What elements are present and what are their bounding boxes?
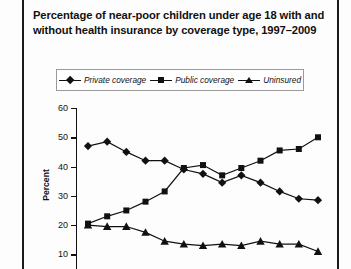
chart-title: Percentage of near-poor children under a… xyxy=(33,8,325,38)
data-point-square-2005 xyxy=(238,165,244,171)
y-tick-label-40: 40 xyxy=(58,162,68,172)
data-point-diamond-1999 xyxy=(122,148,130,156)
data-point-diamond-2005 xyxy=(237,171,245,179)
y-tick-label-50: 50 xyxy=(58,132,68,142)
legend-label-uninsured: Uninsured xyxy=(263,75,301,85)
data-point-diamond-1997 xyxy=(84,142,92,150)
plot-area: Percent 605040302010 xyxy=(76,108,324,269)
data-point-triangle-2009 xyxy=(314,247,322,255)
page-frame-right-rule xyxy=(337,0,339,269)
data-point-square-2002 xyxy=(181,165,187,171)
data-point-square-2001 xyxy=(162,188,168,194)
legend-item-uninsured: Uninsured xyxy=(238,75,301,85)
y-tick-label-10: 10 xyxy=(58,249,68,259)
y-tick-label-60: 60 xyxy=(58,103,68,113)
data-point-square-2006 xyxy=(258,158,264,164)
data-point-diamond-2006 xyxy=(256,179,264,187)
data-point-square-2000 xyxy=(143,199,149,205)
data-point-diamond-2007 xyxy=(276,187,284,195)
series-lines xyxy=(76,108,324,269)
chart-legend: Private coverage Public coverage Uninsur… xyxy=(56,69,304,91)
data-point-square-2004 xyxy=(219,172,225,178)
data-point-square-2009 xyxy=(315,134,321,140)
data-point-square-2003 xyxy=(200,162,206,168)
figure-panel: Percentage of near-poor children under a… xyxy=(0,0,351,269)
legend-item-private-coverage: Private coverage xyxy=(59,75,146,85)
data-point-diamond-2004 xyxy=(218,179,226,187)
page-frame-left-rule xyxy=(22,0,24,269)
legend-diamond-marker-icon xyxy=(59,75,81,85)
data-point-diamond-2008 xyxy=(295,195,303,203)
y-axis-title: Percent xyxy=(41,169,51,201)
legend-label-private-coverage: Private coverage xyxy=(84,75,146,85)
data-point-triangle-2001 xyxy=(160,237,168,245)
legend-triangle-marker-icon xyxy=(238,75,260,85)
data-point-diamond-1998 xyxy=(103,138,111,146)
y-tick-label-30: 30 xyxy=(58,191,68,201)
legend-label-public-coverage: Public coverage xyxy=(175,75,234,85)
data-point-square-1998 xyxy=(104,213,110,219)
legend-item-public-coverage: Public coverage xyxy=(150,75,234,85)
data-point-square-1999 xyxy=(123,207,129,213)
data-point-diamond-2000 xyxy=(141,157,149,165)
data-point-square-2008 xyxy=(296,146,302,152)
data-point-diamond-2003 xyxy=(199,170,207,178)
data-point-triangle-2004 xyxy=(218,240,226,248)
y-tick-label-20: 20 xyxy=(58,220,68,230)
data-point-diamond-2001 xyxy=(161,157,169,165)
data-point-triangle-2006 xyxy=(256,237,264,245)
data-point-diamond-2009 xyxy=(314,196,322,204)
legend-square-marker-icon xyxy=(150,75,172,85)
data-point-square-2007 xyxy=(277,147,283,153)
